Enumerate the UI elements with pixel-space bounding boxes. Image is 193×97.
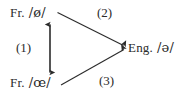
node-eng-schwa: Eng./ə/ [128, 41, 174, 54]
node-fr-open-mid-language: Fr. [10, 75, 25, 90]
edge-label-2: (2) [97, 6, 112, 19]
node-fr-close-mid-language: Fr. [10, 5, 25, 20]
edge-2-arrow-diagonal [58, 13, 124, 46]
edge-3-arrow-diagonal [61, 50, 124, 86]
node-eng-schwa-language: Eng. [128, 40, 153, 55]
edge-label-1: (1) [16, 41, 31, 54]
node-fr-open-mid: Fr./œ/ [10, 76, 51, 89]
node-fr-close-mid-phoneme: /ø/ [29, 5, 46, 20]
node-eng-schwa-phoneme: /ə/ [157, 40, 174, 55]
vowel-mapping-diagram: Fr./ø/ Fr./œ/ Eng./ə/ (1) (2) (3) [0, 0, 193, 97]
node-fr-close-mid: Fr./ø/ [10, 6, 46, 19]
node-fr-open-mid-phoneme: /œ/ [29, 75, 51, 90]
edge-label-3: (3) [99, 74, 114, 87]
